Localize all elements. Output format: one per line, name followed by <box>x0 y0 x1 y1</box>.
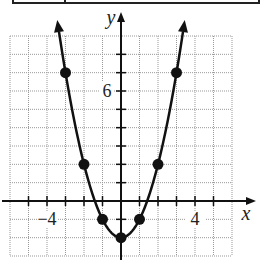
data-point <box>153 159 164 170</box>
y-axis-label: y <box>105 6 116 29</box>
curve-arrow-right-icon <box>178 20 188 33</box>
x-tick-label: 4 <box>191 209 200 229</box>
data-point <box>171 67 182 78</box>
x-tick-label: −4 <box>37 209 56 229</box>
curve-arrow-left-icon <box>54 20 64 33</box>
x-axis-label: x <box>241 202 251 224</box>
data-point <box>116 232 127 243</box>
data-point <box>97 214 108 225</box>
y-tick-label: 6 <box>103 81 112 101</box>
y-axis-arrow-icon <box>117 12 125 22</box>
parabola-graph: yx−446 <box>0 0 265 261</box>
data-point <box>134 214 145 225</box>
data-point <box>79 159 90 170</box>
data-point <box>60 67 71 78</box>
